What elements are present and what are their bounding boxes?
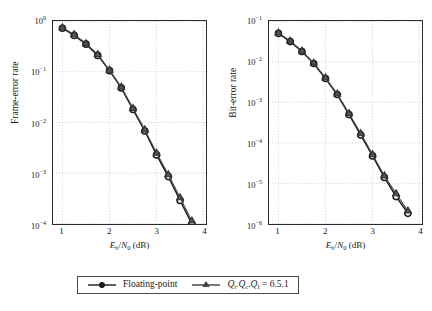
series-line <box>278 33 407 213</box>
chart-panel-bit-error-rate: Bit-error rate 10−1 10−2 10−3 10−4 10−5 … <box>216 0 432 270</box>
data-series-left <box>53 21 206 224</box>
x-tick-label: 4 <box>418 227 423 236</box>
x-axis-title-left: Eb/N0 (dB) <box>52 241 207 251</box>
triangle-marker-icon <box>191 280 221 290</box>
y-tick-label-group-left: 100 10−1 10−2 10−3 10−4 <box>0 20 50 225</box>
y-tick-label: 10−3 <box>247 97 262 107</box>
figure-root: Frame-error rate 100 10−1 10−2 10−3 10−4 <box>0 0 432 311</box>
y-tick-exponent: −6 <box>255 219 262 226</box>
x-tick-label: 1 <box>275 227 280 236</box>
y-tick-exponent: −5 <box>255 178 262 185</box>
x-axis-subscript-zero: 0 <box>343 244 346 251</box>
legend-label-fixed-point: Qi.Qc.Qf = 6.5.1 <box>227 280 288 290</box>
y-tick-label: 10−2 <box>31 117 46 127</box>
series-line <box>62 28 191 221</box>
y-tick-label-group-right: 10−1 10−2 10−3 10−4 10−5 10−6 <box>216 20 266 225</box>
legend-entry-floating-point[interactable]: Floating-point <box>87 280 177 290</box>
x-tick-label: 4 <box>202 227 207 236</box>
x-axis-unit: (dB) <box>349 240 366 250</box>
plot-area-bit-error-rate <box>268 20 423 225</box>
y-tick-label: 10−4 <box>247 138 262 148</box>
x-tick-label: 3 <box>371 227 376 236</box>
y-tick-exponent: −3 <box>255 96 262 103</box>
x-tick-label: 1 <box>59 227 64 236</box>
data-series-right <box>269 21 422 224</box>
circle-marker-icon <box>87 280 117 290</box>
x-axis-title-right: Eb/N0 (dB) <box>268 241 423 251</box>
y-tick-exponent: −4 <box>255 137 262 144</box>
y-tick-exponent: −1 <box>39 65 46 72</box>
y-tick-label: 10−1 <box>31 66 46 76</box>
x-axis-unit: (dB) <box>133 240 150 250</box>
y-tick-label: 10−4 <box>31 220 46 230</box>
x-tick-label: 3 <box>155 227 160 236</box>
y-tick-exponent: −2 <box>255 55 262 62</box>
y-tick-label: 10−2 <box>247 56 262 66</box>
y-tick-exponent: −3 <box>39 168 46 175</box>
plot-area-frame-error-rate <box>52 20 207 225</box>
y-tick-label: 10−6 <box>247 220 262 230</box>
y-tick-exponent: −2 <box>39 116 46 123</box>
chart-panel-frame-error-rate: Frame-error rate 100 10−1 10−2 10−3 10−4 <box>0 0 216 270</box>
y-tick-label: 10−1 <box>247 15 262 25</box>
x-tick-label-group-left: 1 2 3 4 <box>52 227 207 241</box>
x-tick-label-group-right: 1 2 3 4 <box>268 227 423 241</box>
y-tick-label: 10−5 <box>247 179 262 189</box>
series-line <box>62 28 191 224</box>
y-tick-exponent: −4 <box>39 219 46 226</box>
x-tick-label: 2 <box>107 227 112 236</box>
legend-label-floating-point: Floating-point <box>123 280 177 290</box>
y-tick-label: 10−3 <box>31 169 46 179</box>
x-tick-label: 2 <box>323 227 328 236</box>
legend-subscript-f: f <box>257 283 259 290</box>
legend-equals: = <box>262 279 267 289</box>
legend-box: Floating-point Qi.Qc.Qf = 6.5.1 <box>77 276 299 294</box>
x-axis-subscript-zero: 0 <box>127 244 130 251</box>
y-tick-exponent: −1 <box>255 14 262 21</box>
y-tick-label: 100 <box>34 15 46 25</box>
legend-value: 6.5.1 <box>270 279 289 289</box>
legend-entry-fixed-point[interactable]: Qi.Qc.Qf = 6.5.1 <box>191 280 288 290</box>
y-tick-exponent: 0 <box>43 14 46 21</box>
